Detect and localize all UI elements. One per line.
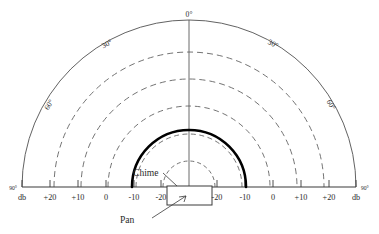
angle-label-baseline-left: 90°: [9, 185, 17, 191]
angle-label-baseline-right: 90°: [361, 185, 369, 191]
tick-label-right-plus10: +10: [295, 193, 308, 202]
pan-rectangle: [167, 186, 212, 205]
tick-label-left-db: db: [18, 193, 26, 202]
tick-label-left-minus10: -10: [129, 193, 140, 202]
chime-leader-line: [163, 173, 177, 186]
chime-callout-label: Chime: [133, 167, 159, 178]
tick-label-left-zero: 0: [104, 193, 108, 202]
baseline-ticks-left: [22, 180, 161, 187]
tick-labels-left: db +20 +10 0 -10 -20: [18, 193, 167, 202]
tick-label-right-db: db: [352, 193, 360, 202]
angle-label-mid-left: 60°: [42, 98, 55, 112]
baseline-ticks-right: [217, 180, 356, 187]
polar-chart-figure: 0° 30° 30° 60° 60° 90° 90° db +20 +10 0 …: [0, 0, 379, 234]
pan-callout-label: Pan: [120, 214, 135, 225]
tick-label-left-plus10: +10: [72, 193, 85, 202]
tick-labels-right: -20 -10 0 +10 +20 db: [212, 193, 361, 202]
tick-label-left-minus20: -20: [156, 193, 167, 202]
angle-label-mid-right: 60°: [324, 98, 337, 112]
tick-label-right-minus10: -10: [240, 193, 251, 202]
angle-label-top: 0°: [186, 10, 193, 19]
tick-label-right-zero: 0: [271, 193, 275, 202]
polar-plot-svg: 0° 30° 30° 60° 60° 90° 90° db +20 +10 0 …: [0, 0, 379, 234]
tick-label-right-minus20: -20: [212, 193, 223, 202]
angle-label-upper-right: 30°: [266, 37, 280, 50]
tick-label-right-plus20: +20: [323, 193, 336, 202]
tick-label-left-plus20: +20: [44, 193, 57, 202]
